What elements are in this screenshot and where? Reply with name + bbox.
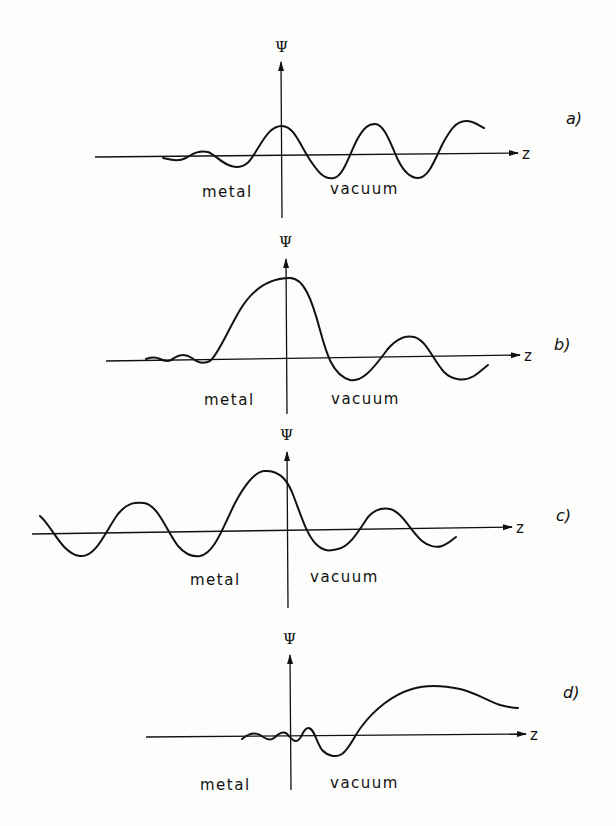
panel-d: Ψ z d) metal vacuum <box>146 630 579 794</box>
vacuum-label: vacuum <box>331 390 400 408</box>
psi-axis <box>290 655 291 790</box>
metal-label: metal <box>200 776 251 794</box>
psi-label: Ψ <box>280 426 293 444</box>
z-label: z <box>530 726 538 744</box>
metal-label: metal <box>204 391 255 409</box>
metal-label: metal <box>202 183 253 201</box>
z-label: z <box>516 519 524 537</box>
panel-c: Ψ z c) metal vacuum <box>32 426 571 608</box>
panel-b: Ψ z b) metal vacuum <box>106 233 570 414</box>
panel-tag: a) <box>566 109 582 128</box>
psi-label: Ψ <box>279 233 292 251</box>
psi-label: Ψ <box>283 630 296 648</box>
z-label: z <box>522 145 530 163</box>
z-axis <box>146 734 526 737</box>
z-axis <box>32 527 512 534</box>
psi-axis <box>286 259 287 414</box>
z-label: z <box>524 347 532 365</box>
wavefunction-curve <box>146 278 488 380</box>
wavefunction-curve <box>40 471 456 556</box>
wavefunction-curve <box>163 121 484 178</box>
metal-label: metal <box>190 571 241 589</box>
vacuum-label: vacuum <box>310 568 379 586</box>
wavefunction-curve <box>242 686 518 756</box>
panel-a: Ψ z a) metal vacuum <box>95 38 582 218</box>
panel-tag: d) <box>563 683 579 702</box>
psi-axis <box>281 62 282 218</box>
vacuum-label: vacuum <box>330 180 399 198</box>
psi-axis <box>287 452 288 608</box>
wavefunction-figure: Ψ z a) metal vacuum Ψ z b) metal vacuum … <box>0 0 616 826</box>
vacuum-label: vacuum <box>330 774 399 792</box>
panel-tag: c) <box>556 506 571 525</box>
psi-label: Ψ <box>275 38 288 56</box>
panel-tag: b) <box>554 335 570 354</box>
